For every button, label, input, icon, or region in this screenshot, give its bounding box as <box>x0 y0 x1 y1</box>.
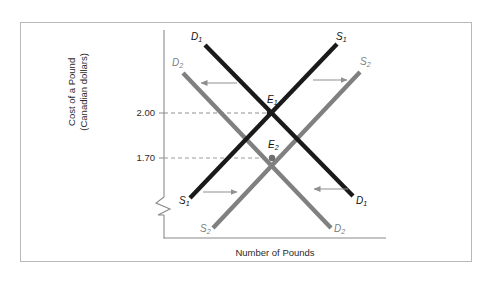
curve-label-D1-bottom: D1 <box>356 196 367 206</box>
figure-container: 2.00 1.70 Cost of a Pound (Canadian doll… <box>0 0 498 286</box>
y-tick-label-200: 2.00 <box>107 108 155 118</box>
curve-label-D2-top: D2 <box>172 58 183 68</box>
y-tick-label-170: 1.70 <box>107 153 155 163</box>
axis-lines <box>156 30 386 239</box>
equilibrium-point-E2[interactable] <box>269 155 275 161</box>
curve-label-S2-bottom: S2 <box>200 224 211 234</box>
curve-label-S1-bottom: S1 <box>179 196 190 206</box>
equilibrium-label-E2: E2 <box>268 140 279 150</box>
curve-label-S1-top: S1 <box>336 32 347 42</box>
y-axis-title: Cost of a Pound (Canadian dollars) <box>66 12 90 172</box>
equilibrium-label-E1: E1 <box>267 95 278 105</box>
curves <box>183 44 360 228</box>
curve-label-D2-bottom: D2 <box>334 224 345 234</box>
y-axis-ticks <box>159 113 164 158</box>
curve-label-D1-top: D1 <box>191 32 202 42</box>
equilibrium-point-E1[interactable] <box>267 110 273 116</box>
x-axis-title: Number of Pounds <box>164 248 386 258</box>
y-axis-break-icon <box>156 197 170 215</box>
curve-label-S2-top: S2 <box>360 57 371 67</box>
